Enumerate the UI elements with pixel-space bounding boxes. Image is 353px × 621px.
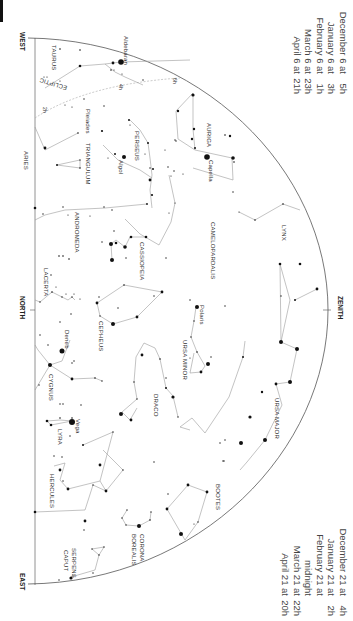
- direction-west: WEST: [19, 32, 26, 51]
- constellation-lines: [35, 60, 317, 577]
- label-deneb: Deneb: [64, 330, 70, 349]
- label-polaris: Polaris: [199, 305, 205, 325]
- times-top: December 6 at5h January 6 at3h February …: [292, 4, 350, 94]
- label-algol: Algol: [118, 160, 124, 174]
- time-row: April 6 at21h: [292, 4, 304, 94]
- star-ursa-major: [263, 438, 267, 442]
- label-serpens: SERPENS: [71, 548, 77, 578]
- label-caput: CAPUT: [63, 550, 69, 571]
- star-deneb: [60, 349, 65, 354]
- label-andromeda: ANDROMEDA: [74, 212, 80, 253]
- label-corona: CORONA: [139, 534, 145, 562]
- label-camelopardalis: CAMELOPARDALIS: [210, 222, 216, 279]
- time-row: January 21 at2h: [326, 496, 338, 616]
- time-row: February 6 at1h: [315, 4, 327, 94]
- stars: [34, 48, 319, 581]
- time-row: December 21 at4h: [338, 496, 350, 616]
- label-cygnus: CYGNUS: [48, 374, 54, 401]
- time-row: December 6 at5h: [338, 4, 350, 94]
- label-lacerta: LACERTA: [43, 268, 49, 297]
- ecliptic-mark-4h: 4h: [118, 84, 124, 90]
- label-borealis: BOREALIS: [131, 534, 137, 566]
- label-vega: Vega: [75, 419, 81, 433]
- label-capella: Capella: [208, 160, 214, 182]
- label-ursa-minor: URSA MINOR: [182, 340, 188, 380]
- star-aries: [44, 147, 47, 150]
- label-triangulum: TRIANGULUM: [85, 143, 91, 185]
- label-taurus: TAURUS: [51, 45, 57, 70]
- label-bootes: BOOTES: [215, 484, 221, 510]
- star-algol: [122, 155, 126, 159]
- label-pleiades: Pleiades: [85, 109, 91, 134]
- label-lyra: LYRA: [57, 429, 63, 445]
- time-row: April 21 at20h: [280, 496, 292, 616]
- label-auriga: AURIGA: [206, 123, 212, 147]
- time-row: February 21 at midnight: [303, 496, 326, 616]
- direction-north: NORTH: [19, 296, 26, 319]
- label-aldebaran: Aldebaran: [123, 36, 129, 65]
- label-perseus: PERSEUS: [134, 131, 140, 161]
- label-ursa-major: URSA MAJOR: [274, 398, 280, 439]
- star-cassiopeia: [109, 242, 113, 246]
- label-hercules: HERCULES: [49, 474, 55, 508]
- ecliptic-mark-6h: 6h: [172, 78, 178, 84]
- label-draco: DRACO: [153, 394, 159, 417]
- label-cassiopeia: CASSIOPEIA: [139, 242, 145, 280]
- label-aries: ARIES: [23, 151, 29, 170]
- star-capella: [204, 154, 210, 160]
- direction-zenith: ZENITH: [337, 296, 344, 319]
- time-row: March 21 at22h: [292, 496, 304, 616]
- time-row: March 6 at23h: [303, 4, 315, 94]
- ecliptic-mark-2h: 2h: [42, 107, 48, 113]
- direction-east: EAST: [19, 573, 26, 590]
- label-cepheus: CEPHEUS: [98, 321, 104, 351]
- time-row: January 6 at3h: [326, 4, 338, 94]
- times-bottom: December 21 at4h January 21 at2h Februar…: [280, 496, 349, 616]
- label-lynx: LYNX: [281, 225, 287, 241]
